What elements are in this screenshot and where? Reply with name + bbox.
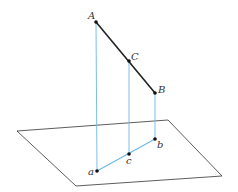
label-A: A: [87, 10, 95, 21]
label-b: b: [157, 139, 163, 150]
label-C: C: [131, 51, 139, 62]
diagram-canvas: A C B a c b: [0, 0, 238, 192]
label-a: a: [88, 166, 94, 177]
label-B: B: [157, 84, 165, 95]
segment-A-B: [96, 22, 155, 93]
projection-plane: [17, 120, 222, 186]
projection-line-A-a: [96, 22, 97, 171]
projection-diagram: A C B a c b: [0, 0, 238, 192]
label-c: c: [126, 155, 132, 166]
point-a: [95, 169, 99, 173]
point-B: [153, 91, 157, 95]
